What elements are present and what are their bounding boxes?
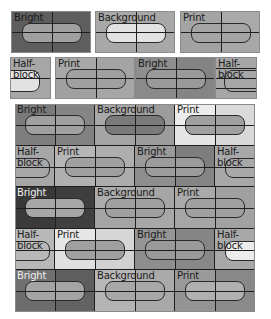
grid-line-horizontal bbox=[216, 88, 256, 89]
tile-label: Half- block bbox=[13, 58, 39, 80]
tile-bright: Bright bbox=[11, 11, 91, 53]
grid-line-horizontal bbox=[12, 32, 90, 33]
grid-line-horizontal bbox=[136, 78, 214, 79]
tile-half-block: Half- block bbox=[215, 57, 257, 99]
tile-print: Print bbox=[180, 11, 260, 53]
tile-bright: Bright bbox=[135, 57, 215, 99]
tile-label: Print bbox=[183, 12, 205, 23]
tile-label: Bright bbox=[14, 12, 43, 23]
tile-label: Bright bbox=[138, 58, 167, 69]
grid-line-horizontal bbox=[56, 78, 134, 79]
tile-label: Print bbox=[58, 58, 80, 69]
tile-print: Print bbox=[55, 57, 135, 99]
tile-background: Background bbox=[95, 11, 175, 53]
grid-line-horizontal bbox=[96, 32, 174, 33]
grid-line-horizontal bbox=[181, 32, 259, 33]
tile-label: Half- block bbox=[218, 58, 244, 80]
tile-half-block: Half- block bbox=[10, 57, 51, 99]
grid-border bbox=[15, 104, 255, 312]
tile-label: Background bbox=[98, 12, 156, 23]
